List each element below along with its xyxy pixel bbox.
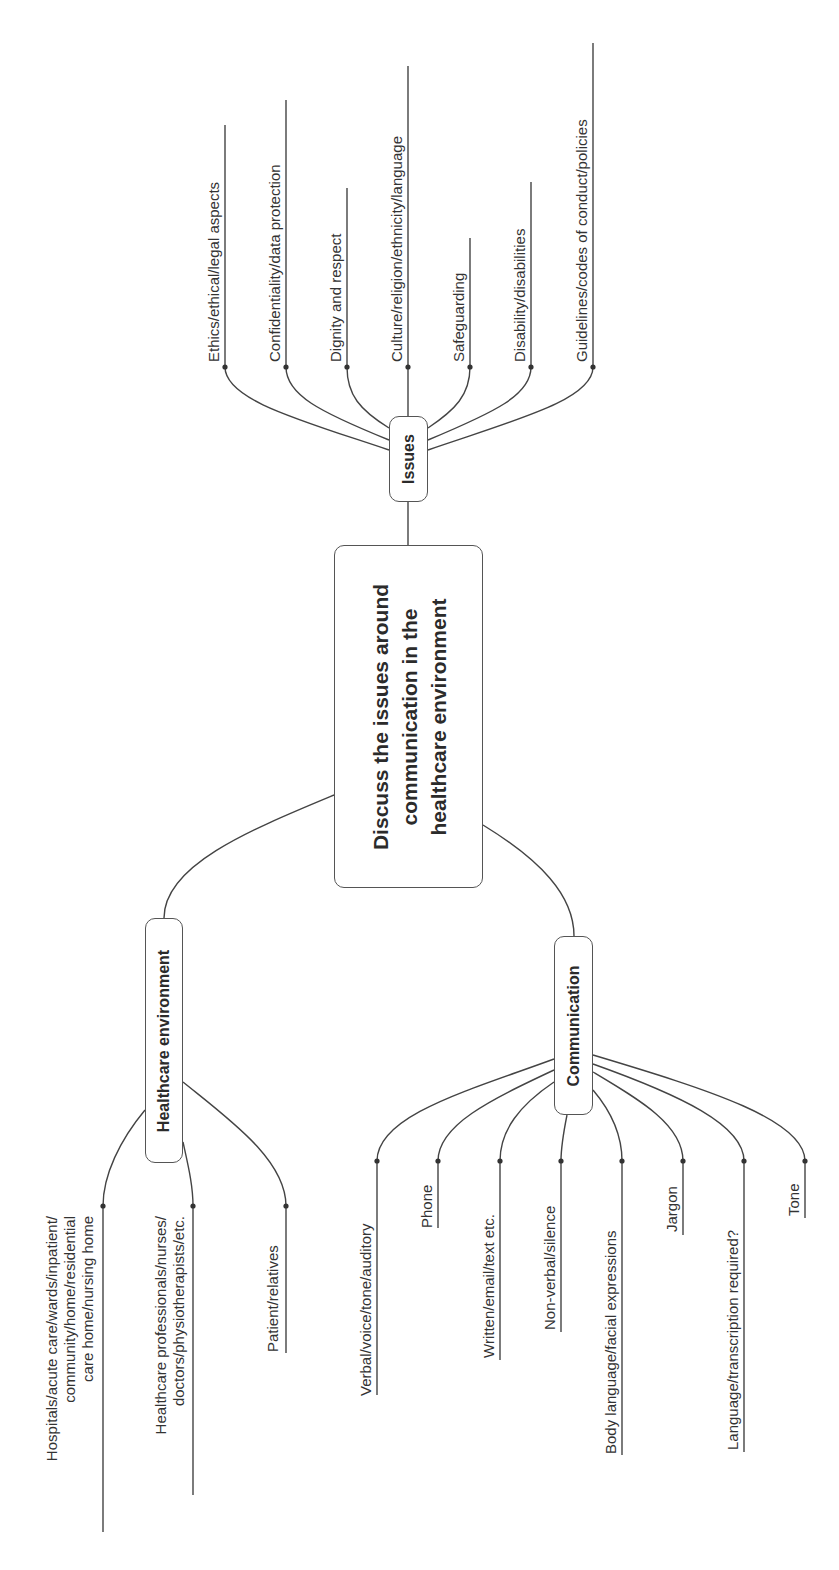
leaf-line: care home/nursing home [79, 1216, 97, 1521]
leaf-line: doctors/physiotherapists/etc. [170, 1216, 188, 1492]
leaf-communication: Jargon [663, 1186, 681, 1232]
leaf-issue: Culture/religion/ethnicity/language [388, 136, 406, 362]
branch-node-healthcare-environment: Healthcare environment [145, 918, 183, 1163]
central-topic-line: communication in the [394, 583, 423, 849]
central-topic-line: healthcare environment [423, 583, 452, 849]
central-topic-text: Discuss the issues around communication … [365, 583, 452, 849]
leaf-communication: Language/transcription required? [724, 1230, 742, 1450]
leaf-issue: Disability/disabilities [511, 229, 529, 362]
leaf-healthcare-environment: Hospitals/acute care/wards/inpatient/ co… [43, 1216, 97, 1521]
branch-label-healthcare-environment: Healthcare environment [155, 949, 173, 1131]
leaf-line: Healthcare professionals/nurses/ [152, 1216, 170, 1492]
leaf-issue: Guidelines/codes of conduct/policies [573, 119, 591, 362]
leaf-line: community/home/residential [61, 1216, 79, 1521]
central-topic-node: Discuss the issues around communication … [334, 545, 483, 888]
leaf-healthcare-environment: Healthcare professionals/nurses/ doctors… [152, 1216, 188, 1492]
central-topic-line: Discuss the issues around [365, 583, 394, 849]
leaf-issue: Ethics/ethical/legal aspects [205, 182, 223, 362]
leaf-issue: Dignity and respect [327, 234, 345, 362]
leaf-communication: Non-verbal/silence [541, 1206, 559, 1330]
leaf-communication: Body language/facial expressions [602, 1231, 620, 1454]
leaf-healthcare-environment: Patient/relatives [264, 1245, 282, 1352]
leaf-line: Hospitals/acute care/wards/inpatient/ [43, 1216, 61, 1521]
leaf-communication: Tone [785, 1183, 803, 1216]
branch-label-communication: Communication [565, 965, 583, 1086]
branch-label-issues: Issues [400, 434, 418, 484]
branch-node-issues: Issues [389, 416, 428, 502]
leaf-communication: Verbal/voice/tone/auditory [357, 1223, 375, 1396]
leaf-communication: Written/email/text etc. [480, 1214, 498, 1358]
branch-node-communication: Communication [554, 936, 593, 1115]
leaf-communication: Phone [418, 1185, 436, 1228]
leaf-issue: Safeguarding [450, 273, 468, 362]
leaf-line: Patient/relatives [264, 1245, 282, 1352]
leaf-issue: Confidentiality/data protection [266, 164, 284, 362]
